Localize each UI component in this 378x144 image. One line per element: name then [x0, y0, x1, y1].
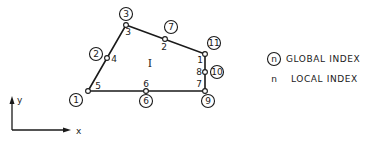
node-6: 6 6	[140, 79, 153, 108]
node-1: 1 5	[70, 81, 101, 107]
node-10: 10 8	[196, 66, 223, 79]
y-axis-label: y	[17, 95, 23, 105]
global-index: 1	[73, 95, 79, 105]
element-label: I	[148, 57, 152, 70]
legend-local-label: LOCAL INDEX	[291, 74, 358, 84]
node-marker	[163, 37, 168, 42]
legend-global-label: GLOBAL INDEX	[286, 54, 360, 64]
local-index: 6	[143, 79, 149, 89]
local-index: 1	[197, 55, 203, 65]
node-marker	[203, 70, 208, 75]
x-axis-arrow-icon	[63, 128, 71, 133]
local-index: 4	[111, 54, 117, 64]
node-marker	[86, 89, 91, 94]
legend: n GLOBAL INDEX n LOCAL INDEX	[268, 53, 361, 85]
node-7: 7 2	[161, 21, 177, 53]
node-marker	[203, 52, 208, 57]
local-index: 5	[95, 81, 101, 91]
global-index: 6	[143, 96, 149, 106]
node-11: 11 1	[197, 37, 220, 66]
global-index: 2	[93, 49, 99, 59]
local-index: 2	[161, 42, 167, 52]
global-index: 7	[168, 22, 174, 32]
node-marker	[144, 89, 149, 94]
global-index: 11	[208, 38, 219, 48]
global-index: 3	[123, 9, 129, 19]
local-index: 8	[196, 67, 202, 77]
y-axis-arrow-icon	[10, 96, 15, 104]
node-marker	[105, 56, 110, 61]
global-index: 10	[211, 67, 223, 77]
legend-global-symbol: n	[271, 54, 277, 64]
local-index: 3	[125, 27, 131, 37]
finite-element-diagram: I 1 5 2 4 3 3 7 2 11 1 10 8	[0, 0, 378, 144]
legend-local-symbol: n	[271, 74, 277, 84]
local-index: 7	[196, 79, 202, 89]
node-2: 2 4	[90, 48, 118, 65]
node-marker	[203, 89, 208, 94]
x-axis-label: x	[76, 126, 82, 136]
global-index: 9	[205, 96, 211, 106]
